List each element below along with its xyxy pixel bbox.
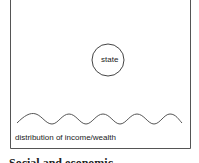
distribution-wave <box>17 113 182 124</box>
state-label: state <box>101 55 118 64</box>
distribution-label: distribution of income/wealth <box>15 133 116 142</box>
caption-cut-off: Social and economic <box>9 156 113 163</box>
